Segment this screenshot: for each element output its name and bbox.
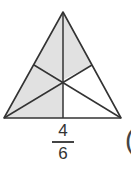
answer-paren: ( <box>125 125 131 155</box>
fraction-label: 4 6 <box>52 122 74 163</box>
fraction-bar <box>52 141 74 143</box>
triangle-diagram <box>0 0 131 125</box>
fraction-denominator: 6 <box>52 145 74 163</box>
fraction-numerator: 4 <box>52 122 74 140</box>
